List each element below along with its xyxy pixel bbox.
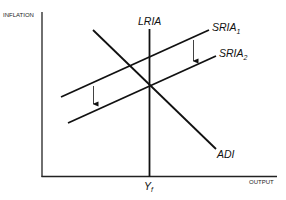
sria1-line	[61, 30, 209, 97]
lria-label: LRIA	[138, 15, 161, 27]
x-axis-label: OUTPUT	[249, 179, 274, 185]
sria2-label-sub: 2	[243, 54, 248, 61]
yf-sub: f	[151, 186, 154, 193]
diagram-canvas: INFLATION OUTPUT LRIA SRIA1 SRIA2 ADI Yf	[0, 0, 286, 200]
sria1-label: SRIA1	[212, 21, 241, 35]
sria1-label-sub: 1	[237, 28, 241, 35]
sria2-line	[68, 56, 216, 123]
adi-label: ADI	[216, 148, 235, 160]
sria1-label-main: SRIA	[212, 21, 237, 33]
sria2-label-main: SRIA	[219, 47, 244, 59]
adi-line	[93, 30, 216, 149]
y-axis-label: INFLATION	[3, 12, 34, 18]
x-tick-label-yf: Yf	[144, 180, 154, 193]
sria2-label: SRIA2	[219, 47, 248, 61]
